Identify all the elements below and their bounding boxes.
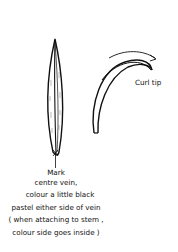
arrow-head-icon (150, 55, 156, 61)
curl-arrow (109, 52, 155, 58)
caption-line: pastel either side of vein (0, 202, 112, 215)
curl-tip-label: Curl tip (135, 79, 161, 86)
caption-line: centre vein, (0, 177, 112, 190)
curled-leaf-drawing (93, 52, 156, 133)
caption-line: colour a little black (0, 189, 112, 202)
caption-line: ( when attaching to stem , (0, 214, 112, 227)
straight-leaf-caption: Mark centre vein, colour a little black … (0, 167, 112, 239)
straight-leaf-drawing (48, 39, 63, 168)
caption-line: colour side goes inside ) (0, 227, 112, 240)
